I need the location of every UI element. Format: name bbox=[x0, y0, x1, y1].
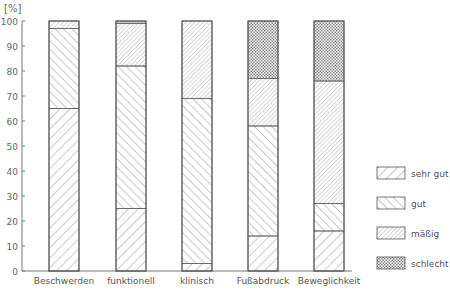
bar-segment-m bbox=[116, 24, 146, 67]
bar-segment-g bbox=[49, 29, 79, 109]
bar-funktionell bbox=[116, 21, 146, 271]
bar-klinisch bbox=[182, 21, 212, 271]
bar-beweglichkeit bbox=[314, 21, 344, 271]
y-tick-label: 100 bbox=[1, 17, 18, 27]
y-tick-label: 30 bbox=[7, 192, 19, 202]
legend-swatch-sg bbox=[377, 167, 405, 179]
legend-swatch-g bbox=[377, 197, 405, 209]
legend-label: sehr gut bbox=[411, 169, 449, 179]
legend-label: mäßig bbox=[411, 229, 439, 239]
stacked-bar-chart: [%] 0102030405060708090100 Beschwerdenfu… bbox=[0, 0, 450, 291]
bars bbox=[49, 21, 344, 271]
bar-segment-m bbox=[248, 79, 278, 127]
bar-segment-sg bbox=[182, 264, 212, 272]
caption-truncated bbox=[0, 283, 450, 291]
legend-swatch-s bbox=[377, 257, 405, 269]
bar-segment-g bbox=[248, 126, 278, 236]
legend-label: schlecht bbox=[411, 259, 449, 269]
bar-segment-sg bbox=[314, 231, 344, 271]
bar-segment-m bbox=[182, 21, 212, 99]
bar-segment-sg bbox=[248, 236, 278, 271]
legend: sehr gutgutmäßigschlecht bbox=[377, 167, 449, 269]
y-tick-label: 10 bbox=[7, 242, 19, 252]
legend-swatch-m bbox=[377, 227, 405, 239]
legend-label: gut bbox=[411, 199, 426, 209]
y-tick-label: 50 bbox=[7, 142, 19, 152]
bar-beschwerden bbox=[49, 21, 79, 271]
y-tick-label: 20 bbox=[7, 217, 19, 227]
y-tick-label: 60 bbox=[7, 117, 19, 127]
bar-fußabdruck bbox=[248, 21, 278, 271]
y-tick-label: 70 bbox=[7, 92, 19, 102]
y-tick-label: 40 bbox=[7, 167, 19, 177]
bar-segment-m bbox=[49, 21, 79, 29]
bar-segment-sg bbox=[116, 209, 146, 272]
bar-segment-g bbox=[314, 204, 344, 232]
y-tick-label: 0 bbox=[12, 267, 18, 277]
y-tick-label: 90 bbox=[7, 42, 19, 52]
y-tick-label: 80 bbox=[7, 67, 19, 77]
bar-segment-s bbox=[314, 21, 344, 81]
bar-segment-s bbox=[248, 21, 278, 79]
bar-segment-g bbox=[182, 99, 212, 264]
bar-segment-m bbox=[314, 81, 344, 204]
bar-segment-g bbox=[116, 66, 146, 209]
bar-segment-sg bbox=[49, 109, 79, 272]
y-axis-unit-label: [%] bbox=[4, 3, 21, 14]
